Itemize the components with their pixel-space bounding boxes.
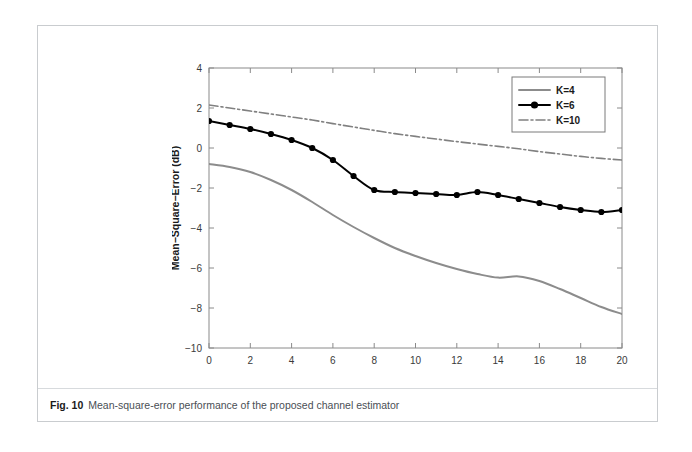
data-point-marker bbox=[330, 157, 336, 163]
x-tick-label: 2 bbox=[248, 355, 254, 366]
y-axis-title: Mean−Square−Error (dB) bbox=[172, 146, 181, 270]
caption-description: Mean-square-error performance of the pro… bbox=[88, 399, 399, 411]
data-point-marker bbox=[619, 207, 625, 213]
figure-card: 02468101214161820−10−8−6−4−2024SNR (dB)M… bbox=[37, 25, 658, 422]
data-point-marker bbox=[557, 204, 563, 210]
data-point-marker bbox=[309, 145, 315, 151]
legend-label-k4: K=4 bbox=[556, 85, 575, 96]
data-point-marker bbox=[598, 209, 604, 215]
data-point-marker bbox=[247, 126, 253, 132]
x-tick-label: 12 bbox=[451, 355, 463, 366]
y-tick-label: −4 bbox=[191, 223, 203, 234]
y-tick-label: −8 bbox=[191, 303, 203, 314]
x-tick-label: 16 bbox=[534, 355, 546, 366]
mse-vs-snr-line-chart: 02468101214161820−10−8−6−4−2024SNR (dB)M… bbox=[172, 43, 629, 374]
x-tick-label: 4 bbox=[289, 355, 295, 366]
chart-plot-area: 02468101214161820−10−8−6−4−2024SNR (dB)M… bbox=[172, 43, 629, 374]
data-point-marker bbox=[454, 192, 460, 198]
data-point-marker bbox=[371, 187, 377, 193]
figure-caption: Fig. 10 Mean-square-error performance of… bbox=[38, 388, 657, 421]
data-point-marker bbox=[268, 131, 274, 137]
data-point-marker bbox=[578, 207, 584, 213]
x-tick-label: 8 bbox=[371, 355, 377, 366]
data-point-marker bbox=[350, 173, 356, 179]
y-tick-label: −2 bbox=[191, 183, 203, 194]
y-tick-label: 4 bbox=[196, 63, 202, 74]
data-point-marker bbox=[227, 122, 233, 128]
data-point-marker bbox=[412, 190, 418, 196]
data-point-marker bbox=[516, 196, 522, 202]
y-tick-label: −10 bbox=[185, 343, 202, 354]
data-point-marker bbox=[392, 189, 398, 195]
chart-legend: K=4K=6K=10 bbox=[512, 77, 605, 132]
data-point-marker bbox=[289, 137, 295, 143]
legend-label-k6: K=6 bbox=[556, 100, 575, 111]
data-point-marker bbox=[474, 189, 480, 195]
x-tick-label: 10 bbox=[410, 355, 422, 366]
x-tick-label: 14 bbox=[493, 355, 505, 366]
x-tick-label: 0 bbox=[206, 355, 212, 366]
data-point-marker bbox=[206, 118, 212, 124]
y-tick-label: 2 bbox=[196, 103, 202, 114]
x-tick-label: 6 bbox=[330, 355, 336, 366]
legend-marker bbox=[531, 101, 538, 108]
data-point-marker bbox=[536, 200, 542, 206]
y-tick-label: −6 bbox=[191, 263, 203, 274]
y-tick-label: 0 bbox=[196, 143, 202, 154]
data-point-marker bbox=[433, 191, 439, 197]
x-tick-label: 18 bbox=[575, 355, 587, 366]
caption-figure-number: Fig. 10 bbox=[50, 399, 83, 411]
data-point-marker bbox=[495, 192, 501, 198]
x-tick-label: 20 bbox=[616, 355, 628, 366]
legend-label-k10: K=10 bbox=[556, 115, 581, 126]
